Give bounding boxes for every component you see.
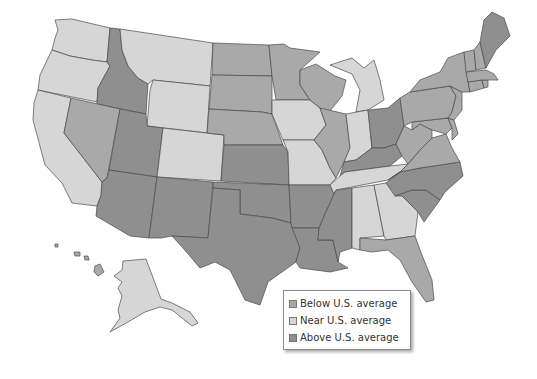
us-choropleth-map	[0, 0, 537, 379]
state-ME	[480, 12, 510, 68]
legend-swatch-above	[289, 334, 297, 342]
state-WY	[147, 80, 210, 133]
legend-label-near: Near U.S. average	[300, 315, 391, 326]
legend-label-above: Above U.S. average	[300, 332, 399, 343]
legend-swatch-near	[289, 317, 297, 325]
state-NM	[149, 177, 213, 238]
legend-item-above: Above U.S. average	[289, 329, 405, 346]
state-HI	[55, 244, 104, 276]
state-SD	[209, 75, 272, 114]
legend-swatch-below	[289, 300, 297, 308]
legend: Below U.S. average Near U.S. average Abo…	[283, 290, 411, 350]
state-CO	[157, 128, 224, 181]
state-AZ	[96, 170, 157, 238]
state-ND	[212, 43, 272, 76]
state-KS	[221, 145, 289, 185]
legend-label-below: Below U.S. average	[300, 298, 397, 309]
state-AK	[110, 259, 198, 332]
state-MA	[466, 70, 498, 82]
legend-item-near: Near U.S. average	[289, 312, 405, 329]
state-NY	[410, 52, 470, 92]
legend-item-below: Below U.S. average	[289, 295, 405, 312]
